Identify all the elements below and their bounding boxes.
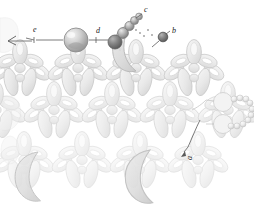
- label-b: b: [172, 27, 176, 35]
- label-a: a: [186, 156, 194, 160]
- label-c: c: [144, 6, 148, 14]
- molecular-array-illustration: [0, 0, 254, 210]
- label-d: d: [96, 27, 100, 35]
- figure-canvas: e d c b a: [0, 0, 254, 210]
- central-sphere: [64, 28, 88, 52]
- label-e: e: [33, 26, 37, 34]
